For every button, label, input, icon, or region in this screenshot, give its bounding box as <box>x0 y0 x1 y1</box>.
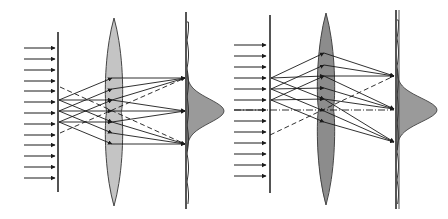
intensity-profile <box>187 71 224 151</box>
diffracted-ray <box>59 78 112 100</box>
diffracted-ray <box>271 76 324 78</box>
intensity-profile <box>397 70 437 150</box>
panel-left <box>24 12 224 209</box>
panel-right <box>234 10 437 209</box>
diffracted-ray <box>271 53 324 78</box>
diffracted-ray <box>271 100 324 122</box>
focused-ray <box>112 111 185 122</box>
optics-diagram <box>0 0 448 219</box>
diffracted-ray <box>59 122 112 144</box>
